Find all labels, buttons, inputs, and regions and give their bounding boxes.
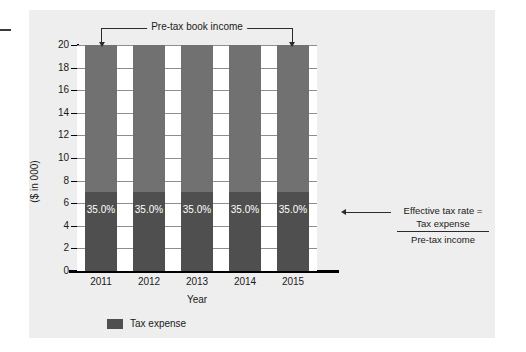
bracket-right-stem <box>292 28 293 43</box>
y-axis-title: ($ in 000) <box>29 137 40 227</box>
bar-data-label: 35.0% <box>229 205 261 215</box>
bar-segment-tax-expense: 35.0% <box>277 192 309 271</box>
bar-data-label: 35.0% <box>181 205 213 215</box>
figure-root: 02468101214161820 ($ in 000) 35.0%35.0%3… <box>0 0 526 352</box>
bar-column: 35.0% <box>277 45 309 271</box>
page-edge-mark <box>0 29 11 31</box>
bracket-left-arrow-icon <box>99 42 105 47</box>
bar-column: 35.0% <box>85 45 117 271</box>
y-tick-label: 20 <box>29 40 69 50</box>
bracket-right-arrow-icon <box>289 42 295 47</box>
callout-arrow-icon <box>341 209 346 215</box>
y-tick-mark <box>71 271 77 272</box>
bar-segment-tax-expense: 35.0% <box>85 192 117 271</box>
fraction-bar <box>397 231 489 232</box>
bar-segment-pretax <box>85 45 117 192</box>
legend-swatch-tax-expense <box>107 319 123 329</box>
chart-legend: Tax expense <box>107 318 186 329</box>
bracket-left-stem <box>101 28 102 43</box>
y-tick-label: 14 <box>29 108 69 118</box>
annotation-pretax-label: Pre-tax book income <box>147 21 247 32</box>
callout-heading: Effective tax rate = <box>397 204 489 217</box>
y-axis-title-wrap: ($ in 000) <box>27 138 41 228</box>
bar-segment-pretax <box>229 45 261 192</box>
callout-numerator: Tax expense <box>397 217 489 230</box>
plot-area: 35.0%35.0%35.0%35.0%35.0% <box>77 45 317 271</box>
callout-body: Effective tax rate = Tax expense Pre-tax… <box>397 204 489 246</box>
bar-data-label: 35.0% <box>277 205 309 215</box>
chart-panel: 02468101214161820 ($ in 000) 35.0%35.0%3… <box>29 10 495 338</box>
y-tick-label: 18 <box>29 63 69 73</box>
y-tick-label: 2 <box>29 243 69 253</box>
x-axis-title: Year <box>77 294 317 305</box>
bar-data-label: 35.0% <box>85 205 117 215</box>
bar-column: 35.0% <box>181 45 213 271</box>
y-tick-label: 0 <box>29 266 69 276</box>
bar-segment-pretax <box>277 45 309 192</box>
bar-column: 35.0% <box>133 45 165 271</box>
bar-segment-tax-expense: 35.0% <box>181 192 213 271</box>
bar-data-label: 35.0% <box>133 205 165 215</box>
legend-label-tax-expense: Tax expense <box>130 318 186 329</box>
bar-segment-tax-expense: 35.0% <box>133 192 165 271</box>
bar-column: 35.0% <box>229 45 261 271</box>
y-tick-label: 16 <box>29 85 69 95</box>
annotation-pretax-bracket: Pre-tax book income <box>101 28 293 50</box>
callout-leader-line <box>345 212 391 213</box>
bar-segment-pretax <box>133 45 165 192</box>
bar-segment-tax-expense: 35.0% <box>229 192 261 271</box>
callout-denominator: Pre-tax income <box>397 233 489 246</box>
bar-segment-pretax <box>181 45 213 192</box>
x-tick-label: 2015 <box>265 276 321 287</box>
